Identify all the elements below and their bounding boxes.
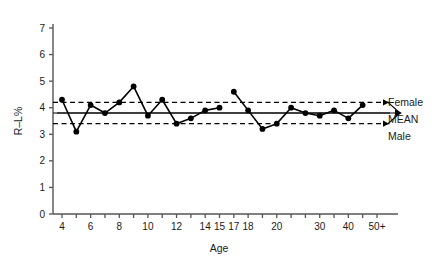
- data-point: [245, 107, 251, 113]
- data-point: [174, 121, 180, 127]
- y-tick-label: 0: [39, 209, 45, 220]
- reference-label-mean: MEAN: [388, 113, 418, 125]
- data-point: [288, 105, 294, 111]
- y-tick-label: 3: [39, 129, 45, 140]
- data-point: [73, 129, 79, 135]
- data-point: [231, 89, 237, 95]
- data-point: [331, 107, 337, 113]
- data-point: [345, 115, 351, 121]
- data-point: [145, 113, 151, 119]
- y-axis-title: R–L%: [12, 107, 24, 136]
- data-point: [274, 121, 280, 127]
- x-tick-label: 15: [214, 221, 226, 232]
- data-point: [88, 102, 94, 108]
- x-tick-label: 6: [88, 221, 94, 232]
- x-tick-label: 18: [243, 221, 255, 232]
- data-point: [116, 100, 122, 106]
- y-tick-label: 4: [39, 102, 45, 113]
- y-tick-label: 7: [39, 23, 45, 34]
- y-tick-label: 5: [39, 76, 45, 87]
- x-tick-label: 17: [228, 221, 240, 232]
- data-point: [131, 84, 137, 90]
- y-tick-label: 2: [39, 155, 45, 166]
- x-tick-label: 4: [59, 221, 65, 232]
- x-tick-label: 8: [116, 221, 122, 232]
- x-tick-label: 30: [314, 221, 326, 232]
- line-chart-canvas: 01234567 46810121415171820304050+ Age R–…: [0, 0, 443, 263]
- chart-figure: 01234567 46810121415171820304050+ Age R–…: [0, 0, 443, 263]
- x-tick-label: 50+: [369, 221, 386, 232]
- data-point: [260, 126, 266, 132]
- x-tick-label: 14: [200, 221, 212, 232]
- y-tick-label: 1: [39, 182, 45, 193]
- reference-label-female: Female: [388, 96, 423, 108]
- data-point: [217, 105, 223, 111]
- x-axis-title: Age: [210, 242, 229, 254]
- reference-label-male: Male: [388, 130, 411, 142]
- x-tick-label: 10: [142, 221, 154, 232]
- data-point: [59, 97, 65, 103]
- y-tick-label: 6: [39, 49, 45, 60]
- x-tick-label: 12: [171, 221, 183, 232]
- data-point: [317, 113, 323, 119]
- data-point: [159, 97, 165, 103]
- data-point: [202, 107, 208, 113]
- data-point: [360, 102, 366, 108]
- data-point: [188, 115, 194, 121]
- x-tick-label: 20: [271, 221, 283, 232]
- x-tick-label: 40: [343, 221, 355, 232]
